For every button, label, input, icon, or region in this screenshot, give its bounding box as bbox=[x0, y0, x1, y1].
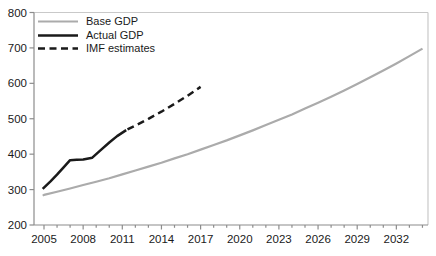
x-tick-label: 2017 bbox=[188, 233, 214, 245]
legend-label-imf-estimates: IMF estimates bbox=[86, 42, 155, 55]
legend-item-actual-gdp: Actual GDP bbox=[38, 29, 155, 43]
legend-label-actual-gdp: Actual GDP bbox=[86, 29, 143, 42]
series-line-actual-gdp bbox=[43, 130, 127, 189]
legend-item-base-gdp: Base GDP bbox=[38, 15, 155, 29]
y-tick-label: 200 bbox=[8, 219, 27, 231]
y-tick-label: 700 bbox=[8, 42, 27, 54]
x-tick-label: 2011 bbox=[110, 233, 135, 245]
x-tick-label: 2026 bbox=[305, 233, 331, 245]
y-tick-label: 400 bbox=[8, 148, 27, 160]
legend-item-imf-estimates: IMF estimates bbox=[38, 42, 155, 56]
y-tick-label: 500 bbox=[8, 113, 27, 125]
imf-estimates-line-swatch bbox=[38, 45, 78, 52]
actual-gdp-line-swatch bbox=[38, 32, 78, 39]
x-tick-label: 2020 bbox=[227, 233, 253, 245]
y-tick-label: 300 bbox=[8, 184, 27, 196]
x-tick-label: 2008 bbox=[70, 233, 96, 245]
series-line-base-gdp bbox=[43, 49, 423, 196]
x-tick-label: 2029 bbox=[344, 233, 370, 245]
x-tick-label: 2032 bbox=[384, 233, 410, 245]
y-tick-label: 800 bbox=[8, 7, 27, 19]
legend: Base GDP Actual GDP IMF estimates bbox=[38, 15, 155, 56]
legend-label-base-gdp: Base GDP bbox=[86, 15, 138, 28]
series-line-imf-estimates bbox=[128, 87, 201, 129]
x-tick-label: 2023 bbox=[266, 233, 292, 245]
x-tick-label: 2014 bbox=[149, 233, 175, 245]
y-tick-label: 600 bbox=[8, 77, 27, 89]
base-gdp-line-swatch bbox=[38, 18, 78, 25]
x-tick-label: 2005 bbox=[31, 233, 57, 245]
gdp-chart: 2003004005006007008002005200820112014201… bbox=[0, 0, 436, 256]
